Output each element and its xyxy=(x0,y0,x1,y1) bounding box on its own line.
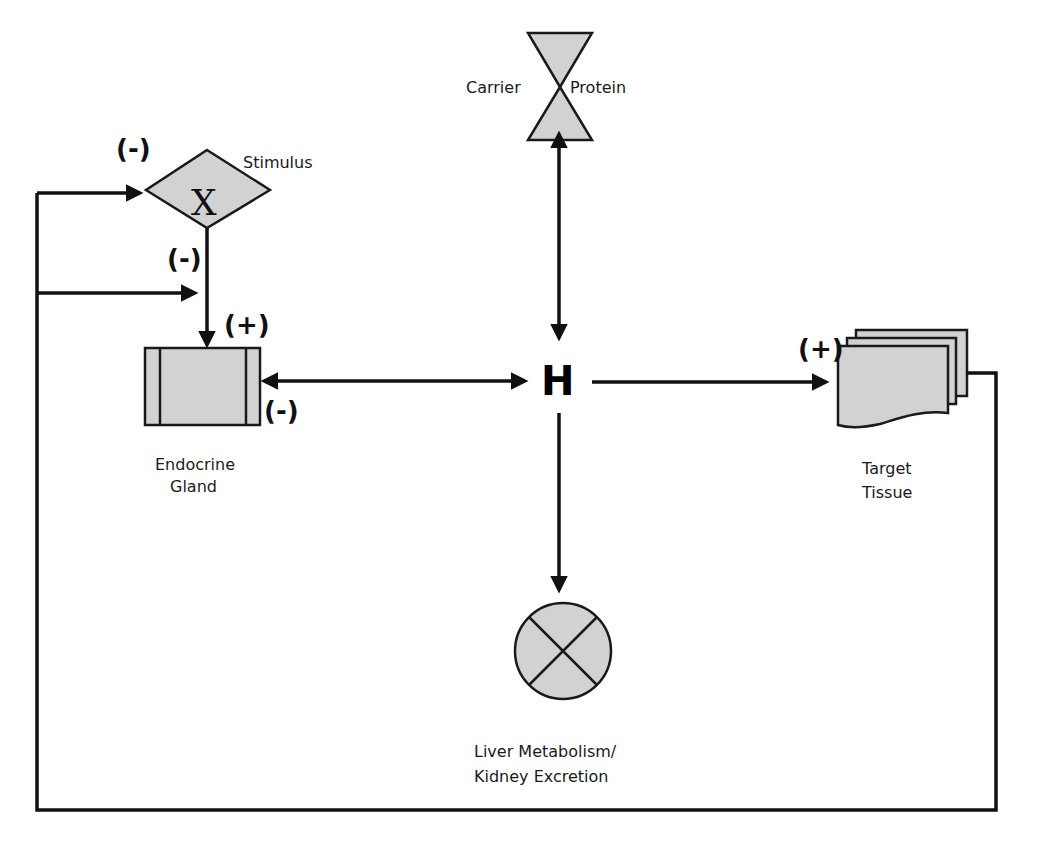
gland-label-line1: Endocrine xyxy=(155,455,235,474)
hormone-feedback-diagram: Carrier Protein X Stimulus (-) (-) (+) (… xyxy=(0,0,1042,844)
stimulus-node[interactable]: X Stimulus (-) xyxy=(116,134,313,228)
liver-kidney-node[interactable]: Liver Metabolism/ Kidney Excretion xyxy=(474,603,617,786)
gland-box-icon xyxy=(145,348,260,425)
endocrine-gland-node[interactable]: (+) (-) Endocrine Gland xyxy=(145,310,299,496)
feedback-loop-line xyxy=(37,193,996,810)
stimulus-sign: (-) xyxy=(116,134,151,164)
stimulus-x-glyph: X xyxy=(191,182,217,223)
target-label-line2: Tissue xyxy=(861,483,912,502)
stimulus-to-gland-sign: (-) xyxy=(167,244,202,274)
hormone-label[interactable]: H xyxy=(541,358,574,404)
target-sign: (+) xyxy=(798,334,844,364)
gland-top-sign: (+) xyxy=(224,310,270,340)
stimulus-label: Stimulus xyxy=(243,153,313,172)
document-icon-front xyxy=(838,346,948,427)
gland-right-sign: (-) xyxy=(264,396,299,426)
target-label-line1: Target xyxy=(861,459,912,478)
gland-label-line2: Gland xyxy=(170,477,217,496)
liver-label-line2: Kidney Excretion xyxy=(474,767,608,786)
liver-label-line1: Liver Metabolism/ xyxy=(474,742,617,761)
carrier-protein-label-right: Protein xyxy=(570,78,626,97)
carrier-protein-label-left: Carrier xyxy=(466,78,521,97)
target-tissue-node[interactable]: (+) Target Tissue xyxy=(798,330,967,502)
carrier-protein-node[interactable]: Carrier Protein xyxy=(466,33,626,140)
